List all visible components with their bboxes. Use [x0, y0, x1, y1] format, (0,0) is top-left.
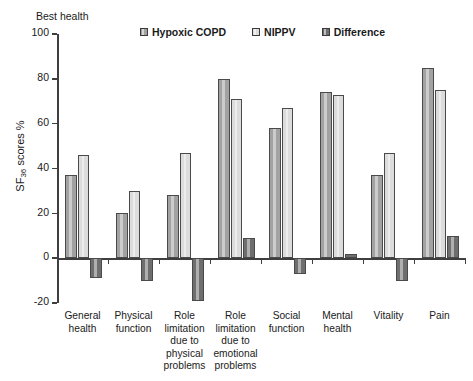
x-axis-category-label-line: function [261, 323, 312, 336]
bar-gloss [439, 91, 442, 257]
y-axis-tick: -20 [52, 302, 57, 303]
bar-gloss [388, 154, 391, 257]
bar-difference [243, 238, 255, 258]
bar-nippv [384, 153, 396, 258]
bar-gloss [247, 239, 250, 257]
y-axis-tick: 40 [52, 168, 57, 169]
bar-gloss [426, 69, 429, 258]
x-axis-tick [210, 258, 211, 264]
x-axis-category-label-line: problems [159, 360, 210, 373]
sf36-bar-chart: Best health SF36 scores % Hypoxic COPDNI… [0, 0, 473, 381]
bar-nippv [180, 153, 192, 258]
y-axis-tick-label: 40 [37, 161, 49, 174]
bar-hypoxic-copd [371, 175, 383, 258]
y-axis-tick-label: 60 [37, 116, 49, 129]
bar-difference [294, 258, 306, 274]
bar-difference [447, 236, 459, 258]
bar-hypoxic-copd [422, 68, 434, 259]
bar-hypoxic-copd [269, 128, 281, 258]
x-axis-tick [312, 258, 313, 264]
x-axis-category-label: Vitality [363, 310, 414, 323]
x-axis-category-label-line: function [108, 323, 159, 336]
bar-gloss [120, 214, 123, 257]
y-axis-tick-label: 80 [37, 71, 49, 84]
y-axis-tick: 20 [52, 213, 57, 214]
bar-gloss [69, 176, 72, 257]
bar-gloss [298, 259, 301, 273]
bar-nippv [333, 95, 345, 259]
y-axis-title-subscript: 36 [19, 169, 28, 178]
bar-gloss [375, 176, 378, 257]
bar-gloss [133, 192, 136, 257]
y-axis-tick-label: 20 [37, 206, 49, 219]
x-axis-category-label-line: health [57, 323, 108, 336]
bar-gloss [82, 156, 85, 257]
bar-gloss [400, 259, 403, 279]
x-axis-category-label: Socialfunction [261, 310, 312, 335]
bar-gloss [273, 129, 276, 257]
x-axis-tick [465, 258, 466, 264]
y-axis-title-main: SF [14, 178, 26, 192]
bar-nippv [231, 99, 243, 258]
best-health-annotation: Best health [36, 10, 89, 22]
x-axis-category-label-line: limitation [210, 323, 261, 336]
x-axis-category-label-line: emotional [210, 348, 261, 361]
x-axis-category-label-line: physical [159, 348, 210, 361]
x-axis-category-label-line: Role [210, 310, 261, 323]
x-axis-category-label: Rolelimitationdue tophysicalproblems [159, 310, 210, 373]
x-axis-category-label-line: Vitality [363, 310, 414, 323]
bar-gloss [451, 237, 454, 257]
x-axis-tick [261, 258, 262, 264]
x-axis-category-label-line: due to [210, 335, 261, 348]
x-axis-category-label-line: health [312, 323, 363, 336]
bar-difference [345, 254, 357, 258]
x-axis-tick [414, 258, 415, 264]
x-axis-category-label-line: Mental [312, 310, 363, 323]
bar-gloss [222, 80, 225, 257]
y-axis-title: SF36 scores % [14, 108, 26, 204]
bar-nippv [78, 155, 90, 258]
x-axis-category-label: Mentalhealth [312, 310, 363, 335]
x-axis-category-label-line: due to [159, 335, 210, 348]
x-axis-category-label-line: Physical [108, 310, 159, 323]
y-axis-title-tail: scores % [14, 120, 26, 168]
bar-gloss [337, 96, 340, 258]
bar-hypoxic-copd [218, 79, 230, 258]
x-axis-category-label: Rolelimitationdue toemotionalproblems [210, 310, 261, 373]
x-axis-category-label-line: Pain [414, 310, 465, 323]
x-axis-category-label-line: General [57, 310, 108, 323]
bar-gloss [145, 259, 148, 279]
x-axis-category-label-line: limitation [159, 323, 210, 336]
bar-nippv [129, 191, 141, 258]
bar-gloss [235, 100, 238, 257]
x-axis-tick [159, 258, 160, 264]
y-axis-tick: 80 [52, 78, 57, 79]
bar-hypoxic-copd [65, 175, 77, 258]
y-axis-tick: 100 [52, 33, 57, 34]
bar-gloss [171, 196, 174, 257]
bar-gloss [196, 259, 199, 300]
x-axis-category-label: Pain [414, 310, 465, 323]
bar-hypoxic-copd [116, 213, 128, 258]
x-axis-category-label-line: problems [210, 360, 261, 373]
bar-gloss [94, 259, 97, 277]
x-axis-category-label: Generalhealth [57, 310, 108, 335]
x-axis-category-label-line: Role [159, 310, 210, 323]
bar-nippv [282, 108, 294, 258]
y-axis-tick-label: -20 [34, 295, 49, 308]
x-axis-tick [363, 258, 364, 264]
bar-gloss [324, 93, 327, 257]
bar-difference [141, 258, 153, 280]
y-axis-tick-label: 0 [43, 250, 49, 263]
bar-gloss [286, 109, 289, 257]
y-axis-tick: 60 [52, 123, 57, 124]
x-axis-tick-origin [57, 258, 58, 264]
x-axis-tick [108, 258, 109, 264]
bar-hypoxic-copd [320, 92, 332, 258]
bar-difference [396, 258, 408, 280]
bar-difference [192, 258, 204, 301]
bar-gloss [184, 154, 187, 257]
plot-area: -20020406080100GeneralhealthPhysicalfunc… [57, 34, 465, 303]
x-axis-category-label-line: Social [261, 310, 312, 323]
bar-hypoxic-copd [167, 195, 179, 258]
